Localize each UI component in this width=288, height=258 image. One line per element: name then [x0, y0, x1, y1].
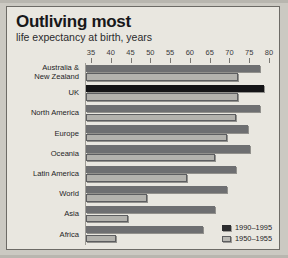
category-label: Asia: [64, 210, 79, 219]
category-row: Latin America: [7, 164, 83, 184]
category-row: Australia & New Zealand: [7, 63, 83, 83]
x-axis-tick-label: 55: [166, 48, 174, 57]
category-row: Oceania: [7, 144, 83, 164]
legend-item: 1990–1995: [222, 223, 272, 232]
x-axis-tick-label: 60: [186, 48, 194, 57]
category-row: Africa: [7, 225, 83, 245]
legend-label: 1950–1955: [235, 234, 272, 243]
bar-1990-1995: [86, 65, 260, 72]
x-axis-tick-label: 70: [225, 48, 233, 57]
bar-1990-1995: [86, 226, 203, 233]
chart-figure: Outliving most life expectancy at birth,…: [0, 0, 288, 258]
bar-group: [86, 124, 274, 144]
bar-1990-1995: [86, 206, 215, 213]
bar-group: [86, 63, 274, 83]
x-axis-tick-label: 65: [206, 48, 214, 57]
category-row: World: [7, 184, 83, 204]
category-row: Asia: [7, 204, 83, 224]
chart-legend: 1990–19951950–1955: [222, 221, 272, 243]
x-axis-tick-label: 35: [87, 48, 95, 57]
bar-1950-1955: [86, 235, 116, 242]
bar-1950-1955: [86, 194, 147, 201]
x-axis-tick-label: 40: [107, 48, 115, 57]
category-row: UK: [7, 83, 83, 103]
bar-1990-1995: [86, 145, 250, 152]
x-axis: 35404550556065707580: [85, 45, 273, 63]
bar-group: [86, 103, 274, 123]
bar-group: [86, 83, 274, 103]
bar-1950-1955: [86, 134, 227, 141]
chart-card: Outliving most life expectancy at birth,…: [6, 6, 280, 250]
bar-1950-1955: [86, 73, 238, 80]
legend-label: 1990–1995: [235, 223, 272, 232]
category-label: North America: [31, 109, 79, 118]
bar-group: [86, 144, 274, 164]
chart-subtitle: life expectancy at birth, years: [16, 31, 152, 43]
category-label: Latin America: [33, 170, 79, 179]
bar-1990-1995: [86, 166, 236, 173]
category-label: Australia & New Zealand: [34, 65, 79, 82]
bar-1990-1995: [86, 105, 260, 112]
bar-1950-1955: [86, 93, 238, 100]
page-edge-top: [0, 0, 288, 3]
category-label: Oceania: [51, 150, 79, 159]
bar-rows: [85, 63, 274, 245]
bar-1950-1955: [86, 174, 187, 181]
bar-1950-1955: [86, 215, 128, 222]
legend-swatch-recent: [222, 225, 231, 231]
bar-1990-1995: [86, 85, 264, 92]
category-label: Africa: [60, 230, 79, 239]
plot-area: 35404550556065707580: [85, 45, 273, 245]
category-label: UK: [68, 89, 79, 98]
bar-1990-1995: [86, 125, 248, 132]
category-row: North America: [7, 103, 83, 123]
bar-1990-1995: [86, 186, 227, 193]
category-labels: Australia & New ZealandUKNorth AmericaEu…: [7, 63, 83, 245]
x-axis-tick-label: 50: [146, 48, 154, 57]
x-axis-tick-label: 45: [126, 48, 134, 57]
bar-group: [86, 164, 274, 184]
bar-1950-1955: [86, 114, 236, 121]
x-axis-tick-label: 80: [265, 48, 273, 57]
category-label: World: [59, 190, 79, 199]
chart-title: Outliving most: [16, 12, 131, 32]
category-label: Europe: [55, 129, 80, 138]
legend-item: 1950–1955: [222, 234, 272, 243]
x-axis-tick-label: 75: [245, 48, 253, 57]
legend-swatch-old: [222, 236, 231, 242]
bar-group: [86, 184, 274, 204]
category-row: Europe: [7, 124, 83, 144]
bar-1950-1955: [86, 154, 215, 161]
